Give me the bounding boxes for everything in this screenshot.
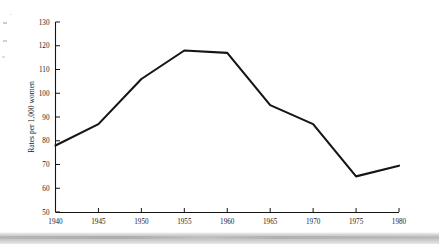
x-axis-tick-label: 1970 xyxy=(306,218,321,226)
scan-artifact-mark xyxy=(3,22,7,24)
y-axis-tick-label: 90 xyxy=(42,114,50,122)
y-axis-tick-label: 70 xyxy=(42,161,50,169)
scan-artifact-mark xyxy=(2,56,5,58)
y-axis-tick-label: 120 xyxy=(39,42,50,50)
line-chart: 5060708090100110120130 19401945195019551… xyxy=(17,11,431,232)
y-axis-tick-label: 50 xyxy=(42,209,50,217)
x-axis-tick-label: 1965 xyxy=(263,218,278,226)
x-axis-tick-labels: 194019451950195519601965197019751980 xyxy=(48,218,406,226)
y-axis-tick-label: 110 xyxy=(39,66,50,74)
x-axis-tick-label: 1960 xyxy=(220,218,235,226)
y-axis-title: Rates per 1,000 women xyxy=(27,81,36,153)
scan-artifact-mark xyxy=(10,14,12,15)
x-axis-tick-label: 1950 xyxy=(134,218,149,226)
y-axis-tick-label: 100 xyxy=(39,90,50,98)
chart-svg: 5060708090100110120130 19401945195019551… xyxy=(17,11,431,232)
x-axis-tick-label: 1940 xyxy=(48,218,63,226)
x-axis-tick-label: 1975 xyxy=(349,218,364,226)
x-axis-tick-label: 1980 xyxy=(392,218,407,226)
y-axis-tick-label: 130 xyxy=(39,19,50,27)
scan-artifact-mark xyxy=(3,40,7,42)
plot-background xyxy=(17,11,431,232)
y-axis-tick-label: 80 xyxy=(42,137,50,145)
x-axis-tick-label: 1955 xyxy=(177,218,192,226)
page-bottom-streak xyxy=(0,236,439,239)
x-axis-tick-label: 1945 xyxy=(91,218,106,226)
y-axis-tick-label: 60 xyxy=(42,185,50,193)
